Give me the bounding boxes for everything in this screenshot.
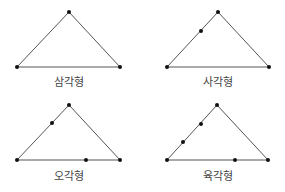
figure-label: 오각형 xyxy=(54,170,84,183)
vertex-point xyxy=(216,10,220,14)
triangle-outline xyxy=(167,12,269,67)
triangle-outline xyxy=(17,105,120,160)
figure-triangle-6-points: 육각형 xyxy=(165,103,270,183)
edge-point xyxy=(181,140,185,144)
vertex-point xyxy=(67,103,71,107)
vertex-point xyxy=(118,65,122,69)
triangle-outline xyxy=(17,12,120,67)
vertex-point xyxy=(215,103,219,107)
vertex-point xyxy=(15,158,19,162)
vertex-point xyxy=(165,158,169,162)
edge-point xyxy=(199,122,203,126)
triangle-diagram: 삼각형 사각형 오각형 육각형 xyxy=(0,0,285,192)
vertex-point xyxy=(15,65,19,69)
figure-label: 삼각형 xyxy=(54,76,84,89)
vertex-point xyxy=(267,65,271,69)
triangle-outline xyxy=(167,105,268,160)
vertex-point xyxy=(266,158,270,162)
figure-label: 육각형 xyxy=(203,170,233,183)
edge-point xyxy=(84,158,88,162)
edge-point xyxy=(233,158,237,162)
vertex-point xyxy=(165,65,169,69)
figure-triangle-3: 삼각형 xyxy=(15,10,122,89)
vertex-point xyxy=(67,10,71,14)
edge-point xyxy=(50,121,54,125)
figure-label: 사각형 xyxy=(203,76,233,89)
figure-triangle-5-points: 오각형 xyxy=(15,103,122,183)
figure-triangle-4-points: 사각형 xyxy=(165,10,271,89)
vertex-point xyxy=(118,158,122,162)
edge-point xyxy=(199,29,203,33)
